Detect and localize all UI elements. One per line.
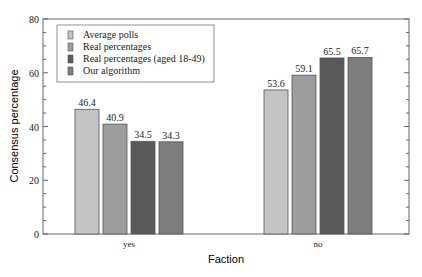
bar (292, 75, 316, 234)
bar-value-label: 34.3 (162, 130, 180, 141)
legend-swatch (68, 55, 73, 63)
y-tick-label: 60 (29, 68, 39, 79)
bar-chart: 02040608046.440.934.534.3yes53.659.165.5… (0, 0, 422, 277)
y-tick-label: 20 (29, 175, 39, 186)
bar (131, 141, 155, 234)
legend: Average pollsReal percentagesReal percen… (57, 25, 214, 82)
bar-value-label: 34.5 (134, 129, 152, 140)
bar-value-label: 53.6 (267, 78, 285, 89)
legend-label: Real percentages (aged 18-49) (83, 53, 205, 65)
x-axis-label: Faction (208, 253, 244, 265)
y-tick-label: 0 (34, 229, 39, 240)
legend-label: Real percentages (83, 41, 151, 52)
bar (320, 58, 344, 234)
bar (348, 57, 372, 234)
bar (159, 142, 183, 234)
x-tick-label: yes (123, 239, 135, 249)
legend-label: Average polls (83, 29, 138, 40)
bar (264, 90, 288, 234)
x-tick-label: no (314, 239, 324, 249)
y-tick-label: 80 (29, 14, 39, 25)
legend-swatch (68, 43, 73, 51)
bar-value-label: 59.1 (295, 63, 313, 74)
bar-value-label: 65.5 (323, 46, 341, 57)
bar (103, 124, 127, 234)
bar-value-label: 65.7 (351, 45, 369, 56)
bar-value-label: 46.4 (78, 97, 96, 108)
bar (75, 109, 99, 234)
legend-label: Our algorithm (83, 65, 140, 76)
bar-value-label: 40.9 (106, 112, 124, 123)
legend-swatch (68, 31, 73, 39)
y-axis-label: Consensus percentage (8, 69, 20, 182)
y-tick-label: 40 (29, 122, 39, 133)
legend-swatch (68, 67, 73, 75)
